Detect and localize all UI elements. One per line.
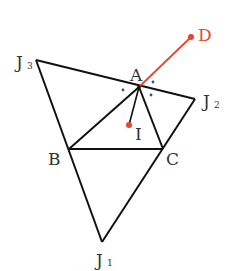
label-c: C xyxy=(166,149,179,169)
point-d xyxy=(188,34,194,40)
segment-a-b xyxy=(69,87,139,149)
label-d: D xyxy=(198,25,212,45)
point-a xyxy=(137,85,141,89)
label-j2-sub: 2 xyxy=(214,100,220,110)
label-a: A xyxy=(129,65,143,85)
segment-a-d xyxy=(139,37,191,87)
segment-j3-j2 xyxy=(36,60,195,99)
angle-mark-dot xyxy=(122,89,125,92)
angle-mark-dot xyxy=(150,94,153,97)
label-j1: J xyxy=(94,250,103,270)
label-j3: J xyxy=(14,52,23,72)
geometry-diagram: A B C I D J 3 J 2 J 1 xyxy=(0,0,239,271)
point-i xyxy=(126,122,132,128)
label-j3-sub: 3 xyxy=(27,61,33,71)
label-j2: J xyxy=(201,91,210,111)
label-j1-sub: 1 xyxy=(107,258,113,268)
segment-j2-j1 xyxy=(102,99,195,242)
angle-mark-dot xyxy=(152,81,155,84)
segment-j3-j1 xyxy=(36,60,102,242)
label-b: B xyxy=(48,149,61,169)
label-i: I xyxy=(135,124,142,144)
